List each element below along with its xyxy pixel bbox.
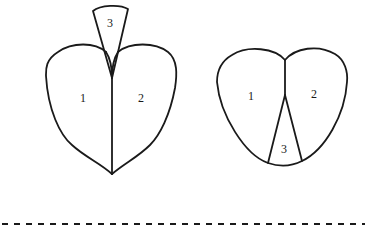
- right-figure: 1 2 3: [217, 48, 347, 165]
- right-figure-label-3: 3: [281, 142, 287, 156]
- right-figure-label-1: 1: [248, 89, 254, 103]
- left-figure: 1 2 3: [46, 6, 176, 174]
- left-figure-right-lobe: [112, 45, 176, 175]
- left-figure-label-2: 2: [138, 91, 144, 105]
- left-figure-label-1: 1: [80, 91, 86, 105]
- left-figure-label-3: 3: [107, 16, 113, 30]
- left-figure-left-lobe: [46, 45, 112, 175]
- diagram-canvas: 1 2 3 1 2 3: [0, 0, 365, 226]
- right-figure-label-2: 2: [311, 87, 317, 101]
- right-figure-wedge-right: [285, 95, 302, 161]
